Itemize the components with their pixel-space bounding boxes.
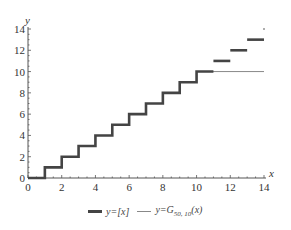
legend-label-floor: y=[x] — [106, 206, 129, 217]
x-tick-label: 14 — [259, 181, 271, 193]
x-tick-label: 8 — [160, 181, 166, 193]
x-tick-label: 4 — [93, 181, 99, 193]
y-tick-label: 0 — [20, 172, 26, 184]
y-tick-label: 8 — [20, 87, 26, 99]
y-axis-label: y — [24, 14, 30, 26]
y-tick-label: 2 — [20, 151, 26, 163]
legend-label-g-subscript: 50, 10 — [174, 210, 192, 218]
floor-function-line — [28, 72, 213, 178]
legend-swatch-thin-line — [137, 211, 151, 212]
step-function-chart: 0246810121402468101214xy — [0, 0, 291, 200]
legend-label-g: y=G50, 10(x) — [155, 204, 202, 218]
x-tick-label: 0 — [25, 181, 31, 193]
chart-legend: y=[x] y=G50, 10(x) — [88, 203, 210, 219]
y-tick-label: 4 — [20, 129, 26, 141]
x-tick-label: 12 — [225, 181, 236, 193]
x-tick-label: 6 — [126, 181, 132, 193]
x-axis-label: x — [268, 167, 274, 179]
legend-item-floor: y=[x] — [88, 206, 129, 217]
y-tick-label: 6 — [20, 108, 26, 120]
legend-label-g-prefix: y=G — [155, 204, 173, 215]
y-tick-label: 10 — [14, 66, 26, 78]
x-tick-label: 2 — [59, 181, 65, 193]
legend-label-g-suffix: (x) — [191, 204, 202, 215]
floor-function-point — [263, 28, 265, 30]
g-function-line — [28, 72, 264, 178]
y-tick-label: 12 — [14, 44, 25, 56]
legend-swatch-thick-line — [88, 210, 102, 213]
x-tick-label: 10 — [191, 181, 203, 193]
y-tick-label: 14 — [14, 23, 26, 35]
legend-item-g: y=G50, 10(x) — [137, 204, 202, 218]
